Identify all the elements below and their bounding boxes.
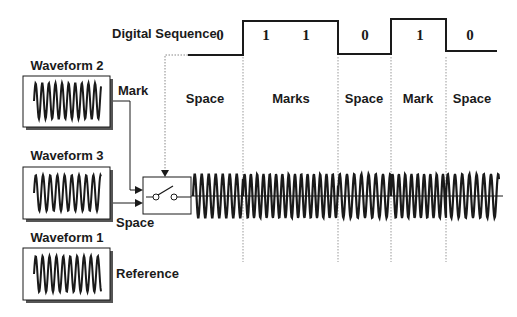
mark-arrow-icon bbox=[135, 186, 143, 194]
fsk-output-signal bbox=[193, 174, 499, 218]
waveform-2-label: Waveform 2 bbox=[30, 58, 103, 73]
bit-5: 0 bbox=[466, 27, 474, 43]
segment-label-4: Space bbox=[453, 91, 491, 106]
switch-icon bbox=[143, 177, 191, 214]
bit-4: 1 bbox=[416, 27, 424, 43]
bit-1: 1 bbox=[262, 27, 270, 43]
control-line bbox=[165, 55, 188, 170]
waveform-1-label: Waveform 1 bbox=[30, 230, 103, 245]
space-arrow-icon bbox=[135, 199, 143, 207]
digital-sequence-title: Digital Sequence bbox=[112, 26, 217, 41]
control-arrow-icon bbox=[161, 170, 169, 177]
waveform-3-label: Waveform 3 bbox=[30, 148, 103, 163]
segment-label-3: Mark bbox=[403, 91, 434, 106]
segment-label-1: Marks bbox=[272, 91, 310, 106]
bit-2: 1 bbox=[302, 27, 310, 43]
digital-signal bbox=[188, 19, 497, 55]
mark-wire bbox=[113, 101, 137, 190]
mark-port-label: Mark bbox=[118, 83, 149, 98]
bit-3: 0 bbox=[361, 27, 369, 43]
bit-labels: 0 1 1 0 1 0 bbox=[216, 27, 474, 43]
fsk-diagram: Digital Sequence 0 1 1 0 1 0 Space Marks… bbox=[0, 0, 517, 317]
bit-0: 0 bbox=[216, 27, 224, 43]
segment-label-0: Space bbox=[186, 91, 224, 106]
segment-label-2: Space bbox=[345, 91, 383, 106]
space-port-label: Space bbox=[116, 215, 154, 230]
reference-label: Reference bbox=[116, 266, 179, 281]
boundary-lines bbox=[243, 57, 446, 262]
